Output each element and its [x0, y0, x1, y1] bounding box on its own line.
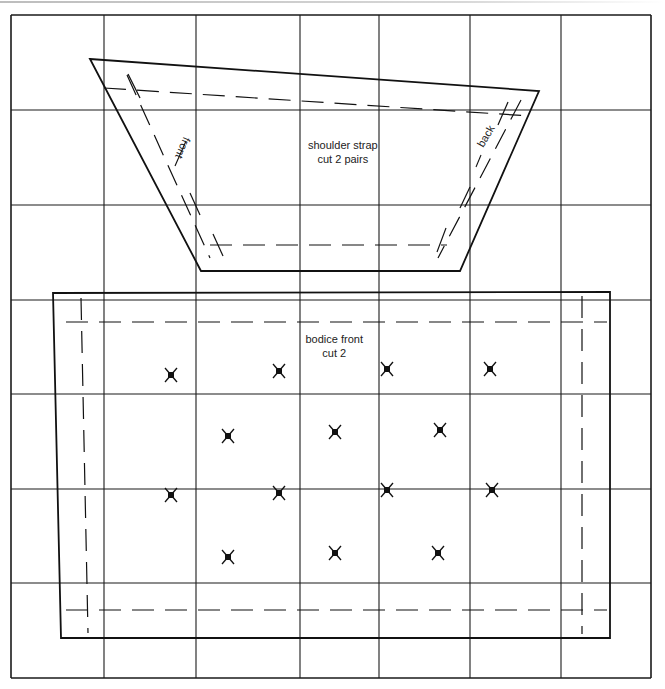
cross-mark-icon — [222, 550, 234, 564]
cross-mark-icon — [273, 486, 285, 500]
cross-mark-icon — [329, 425, 341, 439]
cross-mark-icon — [486, 483, 498, 497]
cross-mark-icon — [381, 362, 393, 376]
bodice-front-cut-note: cut 2 — [306, 346, 363, 360]
placement-marks — [165, 362, 498, 564]
cross-mark-icon — [434, 423, 446, 437]
cross-mark-icon — [381, 483, 393, 497]
cross-mark-icon — [273, 364, 285, 378]
bodice-front-title: bodice front — [306, 332, 363, 346]
cross-mark-icon — [484, 362, 496, 376]
shoulder-strap-notch — [190, 193, 200, 215]
shoulder-strap-label: shoulder strap cut 2 pairs — [308, 138, 378, 166]
shoulder-strap-seam-line — [438, 100, 521, 258]
shoulder-strap-cut-note: cut 2 pairs — [308, 152, 378, 166]
bodice-front-label: bodice front cut 2 — [306, 332, 363, 360]
shoulder-strap-seam-line — [127, 75, 210, 258]
cross-mark-icon — [165, 368, 177, 382]
cross-mark-icon — [222, 429, 234, 443]
shoulder-strap-notch — [437, 228, 446, 252]
shoulder-strap-seam-line — [104, 88, 530, 116]
cross-mark-icon — [432, 546, 444, 560]
shoulder-strap-title: shoulder strap — [308, 138, 378, 152]
grain-line-icon — [476, 155, 481, 167]
cross-mark-icon — [329, 546, 341, 560]
cross-mark-icon — [165, 488, 177, 502]
shoulder-strap-notch — [128, 74, 140, 98]
